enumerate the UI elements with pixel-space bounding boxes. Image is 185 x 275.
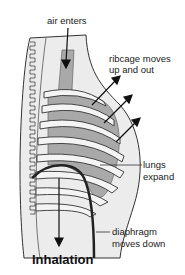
lungs-label-line2: expand [143, 171, 174, 182]
air-enters-label: air enters [47, 15, 87, 26]
diaphragm-label-line2: moves down [112, 238, 165, 249]
diagram-title: Inhalation [32, 252, 93, 267]
lungs-label-line1: lungs [143, 159, 166, 170]
diaphragm-label-line1: diaphragm [112, 226, 157, 237]
inhalation-diagram: air enters ribcage moves up and out lung… [0, 0, 185, 275]
ribcage-label-line2: up and out [109, 64, 154, 75]
torso-illustration [0, 0, 185, 275]
ribcage-label-line1: ribcage moves [109, 53, 171, 64]
